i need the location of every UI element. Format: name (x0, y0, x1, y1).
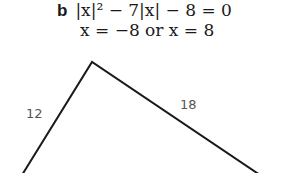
side-label-left: 12 (26, 106, 43, 121)
triangle-figure (0, 0, 285, 173)
side-label-right: 18 (180, 97, 197, 112)
triangle-sides (22, 62, 260, 173)
